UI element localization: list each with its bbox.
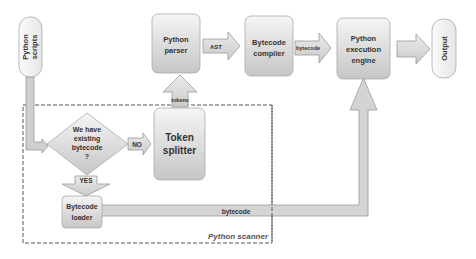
token-splitter-label-line1: Token xyxy=(165,132,194,143)
output-arrow xyxy=(397,34,430,64)
bytecode-compiler-label-line1: Bytecode xyxy=(252,38,286,47)
bytecode-compiled-label: bytecode xyxy=(296,45,320,51)
bytecode-loader-label-line2: loader xyxy=(71,214,92,221)
tokens-label: tokens xyxy=(171,97,189,103)
token-splitter-label-line2: splitter xyxy=(163,145,196,156)
yes-arrow: YES xyxy=(62,176,110,196)
decision-label-line3: bytecode xyxy=(72,144,103,152)
bytecode-compiler-to-engine-arrow: bytecode xyxy=(295,33,331,63)
no-arrow: NO xyxy=(128,133,151,155)
tokens-arrow: tokens xyxy=(163,75,197,107)
ast-label: AST xyxy=(210,44,222,50)
bytecode-compiler-node: Bytecode compiler xyxy=(245,16,293,76)
bytecode-loaded-label: bytecode xyxy=(222,208,251,216)
python-scanner-group: Python scanner xyxy=(23,105,272,243)
python-scanner-label: Python scanner xyxy=(208,232,269,241)
decision-label-line4: ? xyxy=(85,153,89,160)
engine-label-line1: Python xyxy=(351,34,377,43)
decision-label-line1: We have xyxy=(73,126,101,133)
yes-label: YES xyxy=(79,177,93,184)
python-execution-engine-node: Python execution engine xyxy=(337,18,390,79)
python-parser-label-line1: Python xyxy=(163,35,189,44)
decision-diamond-node: We have existing bytecode ? xyxy=(47,113,128,175)
engine-label-line2: execution xyxy=(346,45,381,54)
bytecode-compiler-label-line2: compiler xyxy=(253,49,284,58)
diagram-canvas: Python scanner Python scripts We have ex… xyxy=(0,0,476,259)
bytecode-loader-label-line1: Bytecode xyxy=(66,203,98,211)
output-node: Output xyxy=(432,19,456,78)
ast-arrow: AST xyxy=(203,32,240,60)
no-label: NO xyxy=(132,141,142,148)
python-scripts-label-line1: Python xyxy=(21,34,30,60)
python-parser-label-line2: parser xyxy=(165,46,188,55)
decision-label-line2: existing xyxy=(74,135,100,143)
python-scripts-label-line2: scripts xyxy=(30,35,39,60)
engine-label-line3: engine xyxy=(351,56,375,65)
scripts-to-decision-arrow xyxy=(26,77,48,153)
python-parser-node: Python parser xyxy=(152,14,200,73)
output-label: Output xyxy=(440,36,449,61)
bytecode-loader-node: Bytecode loader xyxy=(62,196,102,228)
python-scripts-node: Python scripts xyxy=(19,17,42,77)
token-splitter-node: Token splitter xyxy=(154,108,205,180)
